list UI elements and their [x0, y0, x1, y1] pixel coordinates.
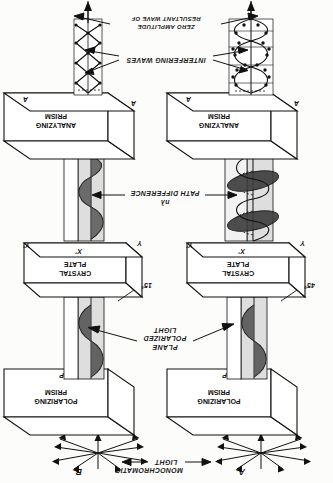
analyzing-prism-b-label: ANALYZING PRISM	[4, 112, 108, 129]
setup-column-a: A	[173, 0, 323, 483]
a-axis-marker-b-left: A	[131, 100, 136, 107]
y-prime-marker-a: Y'	[187, 242, 193, 249]
plane-polarized-light-label: PLANE POLARIZED LIGHT	[137, 326, 193, 352]
y-marker-b: Y	[137, 240, 142, 247]
path-difference-label: nλ PATH DIFFERENCE	[128, 189, 202, 207]
crystal-plate-b-label: CRYSTAL PLATE	[24, 260, 126, 277]
a-axis-marker-a-left: A	[294, 100, 299, 107]
y-prime-marker-b: Y'	[24, 242, 30, 249]
x-prime-marker-b: X'	[76, 248, 82, 255]
crystal-angle-b: 15°	[141, 282, 152, 289]
a-axis-marker-b-right: A	[23, 96, 28, 103]
polarizing-prism-b-label: POLARIZING PRISM	[4, 388, 108, 405]
y-marker-a: Y	[300, 240, 305, 247]
a-axis-marker-a-right: A	[186, 96, 191, 103]
plane-polarized-beam-a-gfx	[173, 297, 323, 379]
interfering-waves-label: INTERFERING WAVES	[122, 57, 210, 64]
polarizing-prism-a-label: POLARIZING PRISM	[167, 388, 271, 405]
crystal-angle-a: 45°	[304, 282, 315, 289]
figure-page: A	[0, 0, 333, 483]
analyzing-prism-a-label: ANALYZING PRISM	[167, 112, 271, 129]
setup-column-b: B	[10, 0, 160, 483]
crystal-plate-a-label: CRYSTAL PLATE	[187, 260, 289, 277]
resultant-wave-label: ZERO AMPLITUDE RESULTANT WAVE OF	[114, 15, 218, 31]
monochromatic-light-label: MONOCHROMATIC LIGHT	[149, 458, 183, 474]
x-prime-marker-a: X'	[239, 248, 245, 255]
scanned-figure-rotated: A	[0, 0, 333, 483]
